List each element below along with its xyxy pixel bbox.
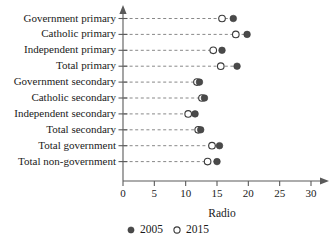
x-tick-marks-group (123, 181, 311, 186)
category-label: Government secondary (14, 75, 117, 87)
data-point-2005 (197, 127, 204, 134)
data-point-2015 (210, 47, 217, 54)
x-axis-title: Radio (208, 207, 236, 219)
category-label: Government primary (23, 12, 116, 24)
data-point-2005 (230, 15, 237, 22)
x-axis-arrowhead (320, 177, 329, 184)
data-point-2005 (219, 47, 226, 54)
x-tick-label: 30 (306, 187, 318, 199)
category-label: Total non-government (18, 155, 116, 167)
legend-marker-2015 (174, 227, 180, 233)
chart-plot-area: Government primaryCatholic primaryIndepe… (0, 0, 332, 237)
series-2005-points-group (192, 15, 251, 165)
data-point-2015 (204, 158, 211, 165)
data-point-2005 (214, 158, 221, 165)
category-label: Total primary (56, 59, 117, 71)
x-tick-labels-group: 051015202530 (120, 187, 317, 199)
x-tick-label: 0 (120, 187, 126, 199)
data-point-2005 (196, 79, 203, 86)
legend-label-2015: 2015 (186, 223, 209, 235)
y-axis-arrowhead (119, 5, 126, 14)
x-tick-label: 10 (180, 187, 192, 199)
data-point-2005 (201, 95, 208, 102)
series-2015-points-group (185, 15, 239, 165)
data-point-2005 (192, 111, 199, 118)
x-tick-label: 20 (243, 187, 255, 199)
legend-marker-2005 (128, 227, 134, 233)
category-label: Catholic primary (41, 27, 116, 39)
data-point-2015 (233, 31, 240, 38)
category-labels-group: Government primaryCatholic primaryIndepe… (14, 12, 117, 167)
category-label: Catholic secondary (31, 91, 116, 103)
chart-legend: 2005 2015 (128, 223, 209, 235)
category-label: Total secondary (46, 123, 116, 135)
x-tick-label: 25 (274, 187, 286, 199)
category-label: Independent secondary (14, 107, 116, 119)
data-point-2015 (185, 111, 192, 118)
x-tick-label: 15 (212, 187, 224, 199)
legend-label-2005: 2005 (140, 223, 163, 235)
data-point-2005 (244, 31, 251, 38)
guide-lines-group (124, 19, 247, 162)
data-point-2005 (216, 142, 223, 149)
dot-chart: Government primaryCatholic primaryIndepe… (0, 0, 332, 237)
x-tick-label: 5 (152, 187, 158, 199)
data-point-2015 (209, 142, 216, 149)
data-point-2015 (217, 63, 224, 70)
data-point-2015 (219, 15, 226, 22)
category-label: Total government (38, 139, 116, 151)
category-label: Independent primary (24, 43, 116, 55)
data-point-2005 (234, 63, 241, 70)
